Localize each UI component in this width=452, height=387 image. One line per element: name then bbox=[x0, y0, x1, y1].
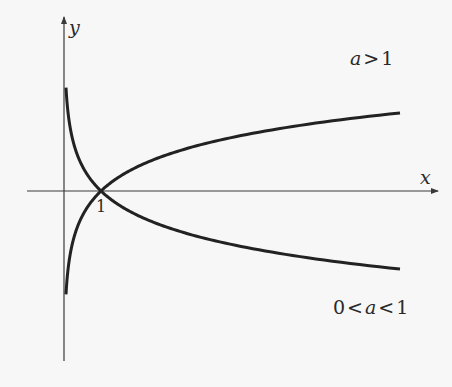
x-tick-label-one: 1 bbox=[96, 197, 106, 216]
annotation-a-greater-than-1: a>1 bbox=[350, 47, 393, 69]
y-axis-label: y bbox=[69, 16, 80, 38]
annotation-a-between-0-and-1: 0<a<1 bbox=[333, 296, 408, 318]
x-axis-label: x bbox=[420, 166, 431, 188]
